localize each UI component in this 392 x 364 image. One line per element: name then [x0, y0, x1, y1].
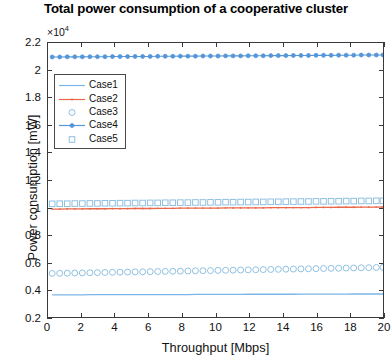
series-case2 [51, 206, 383, 210]
y-axis-tick [47, 263, 52, 264]
x-axis-tick [148, 42, 149, 47]
legend-label: Case4 [87, 118, 118, 131]
y-axis-tick-label: 2.2 [25, 36, 41, 48]
series-case5 [49, 198, 383, 207]
x-axis-tick-label: 6 [145, 321, 151, 333]
y-axis-tick [379, 97, 384, 98]
y-axis-tick [379, 290, 384, 291]
y-axis-tick [47, 318, 52, 319]
legend-swatch-case3-icon [57, 105, 87, 118]
legend-swatch-case1-icon [57, 78, 87, 91]
x-axis-tick-label: 2 [77, 321, 83, 333]
x-axis-tick-label: 20 [378, 321, 391, 333]
x-axis-tick [283, 313, 284, 318]
y-axis-tick [379, 263, 384, 264]
y-axis-tick [47, 290, 52, 291]
series-case3 [49, 264, 383, 276]
y-axis-tick [379, 208, 384, 209]
x-axis-tick [114, 313, 115, 318]
y-axis-tick [379, 318, 384, 319]
x-axis-tick [47, 42, 48, 47]
y-axis-exponent-label: ×104 [47, 24, 69, 38]
x-axis-tick [216, 313, 217, 318]
x-axis-tick [317, 42, 318, 47]
x-axis-tick-label: 10 [209, 321, 222, 333]
y-axis-tick [379, 235, 384, 236]
x-axis-tick [283, 42, 284, 47]
x-axis-tick-label: 0 [44, 321, 50, 333]
y-axis-tick [47, 180, 52, 181]
x-axis-tick-label: 8 [179, 321, 185, 333]
legend-label: Case2 [87, 92, 118, 105]
y-axis-tick [47, 70, 52, 71]
legend-label: Case5 [87, 132, 118, 145]
x-axis-tick [47, 313, 48, 318]
legend-swatch-case2-icon [57, 92, 87, 105]
x-axis-tick [148, 313, 149, 318]
x-axis-tick [114, 42, 115, 47]
y-axis-exponent-base: ×10 [47, 26, 65, 38]
legend-item-case4[interactable]: Case4 [57, 118, 123, 131]
y-axis-exponent-power: 4 [65, 24, 69, 33]
x-axis-tick [350, 42, 351, 47]
y-axis-tick [47, 97, 52, 98]
x-axis-tick [384, 313, 385, 318]
legend-item-case5[interactable]: Case5 [57, 132, 123, 145]
chart-title: Total power consumption of a cooperative… [0, 1, 392, 16]
x-axis-tick [350, 313, 351, 318]
y-axis-tick [47, 152, 52, 153]
x-axis-tick-label: 18 [344, 321, 357, 333]
x-axis-tick [81, 42, 82, 47]
series-case1 [52, 294, 383, 295]
legend-swatch-case5-icon [57, 132, 87, 145]
y-axis-tick [47, 125, 52, 126]
y-axis-tick [379, 70, 384, 71]
x-axis-tick [317, 313, 318, 318]
x-axis-tick-label: 16 [310, 321, 323, 333]
series-case4 [50, 53, 383, 59]
legend-swatch-case4-icon [57, 118, 87, 131]
y-axis-title: Power consumption [mW] [25, 50, 40, 326]
legend-item-case2[interactable]: Case2 [57, 91, 123, 104]
legend-label: Case1 [87, 78, 118, 91]
x-axis-tick [249, 313, 250, 318]
x-axis-tick-label: 12 [243, 321, 256, 333]
chart-figure: Total power consumption of a cooperative… [0, 0, 392, 364]
x-axis-tick [249, 42, 250, 47]
x-axis-tick [216, 42, 217, 47]
y-axis-tick [47, 235, 52, 236]
legend-item-case1[interactable]: Case1 [57, 78, 123, 91]
legend-label: Case3 [87, 105, 118, 118]
x-axis-tick [384, 42, 385, 47]
x-axis-tick-label: 4 [111, 321, 117, 333]
y-axis-tick [379, 152, 384, 153]
x-axis-tick-label: 14 [276, 321, 289, 333]
y-axis-tick [47, 208, 52, 209]
chart-legend: Case1Case2Case3Case4Case5 [54, 74, 126, 149]
x-axis-tick [182, 42, 183, 47]
y-axis-tick [379, 125, 384, 126]
legend-item-case3[interactable]: Case3 [57, 105, 123, 118]
y-axis-tick [379, 180, 384, 181]
x-axis-tick [182, 313, 183, 318]
x-axis-tick [81, 313, 82, 318]
x-axis-title: Throughput [Mbps] [47, 340, 384, 355]
